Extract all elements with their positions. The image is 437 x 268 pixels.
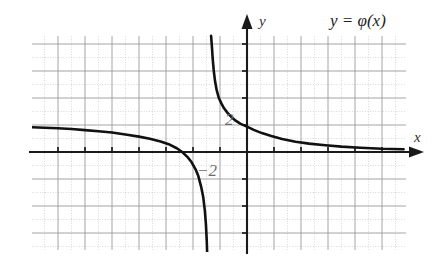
function-title-label: y = φ(x) xyxy=(328,11,386,30)
tick-label-two: 2 xyxy=(225,110,234,129)
axis-y-label: y xyxy=(257,13,266,29)
tick-label-negative-two: −2 xyxy=(197,161,217,180)
canvas-background xyxy=(0,0,437,268)
axis-x-label: x xyxy=(413,129,421,145)
function-plot: y x y = φ(x) 2 −2 xyxy=(0,0,437,268)
graph-figure: y x y = φ(x) 2 −2 xyxy=(0,0,437,268)
